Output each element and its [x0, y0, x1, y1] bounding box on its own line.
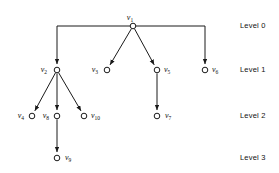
- edge-v2-to-v4: [35, 73, 56, 111]
- node-label-v3: v3: [92, 65, 99, 75]
- node-label-v4: v4: [18, 111, 25, 121]
- node-v3[interactable]: [104, 67, 110, 73]
- level-label-3: Level 3: [240, 153, 266, 162]
- edge-v1-to-v3: [110, 29, 131, 65]
- node-label-v9: v9: [65, 153, 72, 163]
- node-labels-layer: v1v2v3v5v6v4v8v10v7v9: [18, 13, 219, 163]
- node-label-v5: v5: [164, 65, 171, 75]
- node-v7[interactable]: [154, 113, 160, 119]
- node-v5[interactable]: [154, 67, 160, 73]
- node-v10[interactable]: [81, 113, 87, 119]
- edges-layer: [35, 26, 205, 152]
- level-label-2: Level 2: [240, 111, 266, 120]
- node-v2[interactable]: [54, 67, 60, 73]
- tree-diagram-canvas: v1v2v3v5v6v4v8v10v7v9 Level 0Level 1Leve…: [0, 0, 279, 173]
- edge-v2-to-v10: [59, 73, 81, 111]
- node-v4[interactable]: [29, 113, 35, 119]
- node-label-v8: v8: [43, 111, 50, 121]
- node-label-v2: v2: [41, 65, 48, 75]
- node-v8[interactable]: [54, 113, 60, 119]
- node-label-v7: v7: [165, 111, 172, 121]
- node-v9[interactable]: [54, 155, 60, 161]
- tree-graphic: v1v2v3v5v6v4v8v10v7v9: [0, 0, 279, 173]
- node-v1[interactable]: [130, 23, 136, 29]
- nodes-layer: [29, 23, 208, 161]
- node-label-v6: v6: [212, 65, 219, 75]
- level-label-0: Level 0: [240, 21, 266, 30]
- node-v6[interactable]: [202, 67, 208, 73]
- node-label-v1: v1: [127, 13, 134, 23]
- node-label-v10: v10: [91, 111, 100, 121]
- edge-v1-to-v5: [135, 29, 154, 65]
- level-label-1: Level 1: [240, 65, 266, 74]
